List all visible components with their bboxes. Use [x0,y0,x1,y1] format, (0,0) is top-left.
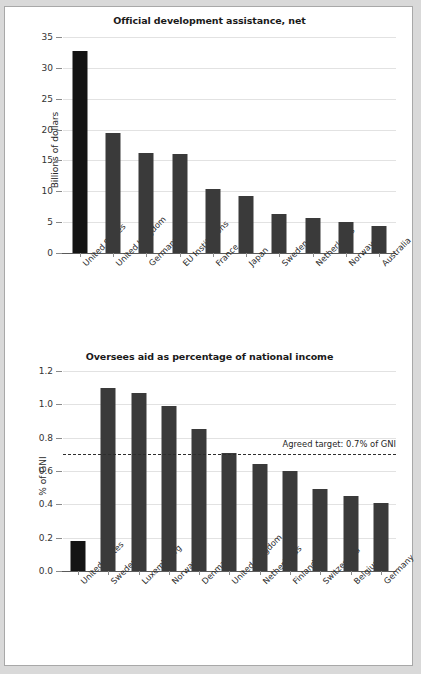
bar[interactable] [72,51,87,253]
x-axis-tick [346,253,347,257]
x-axis-tick [279,253,280,257]
y-axis-tick [56,37,62,38]
y-axis-tick-label: 5 [47,217,53,227]
x-axis-tick [260,571,261,575]
y-axis-tick-label: 1.0 [39,399,53,409]
x-axis-tick [139,571,140,575]
bar-slot: Finland [275,371,305,571]
y-axis-tick [56,130,62,131]
y-axis-tick [56,160,62,161]
bar-slot: United States [63,371,93,571]
x-axis-tick [108,571,109,575]
bar-series: United StatesUnited KingdomGermanyEU Ins… [63,37,396,253]
bar[interactable] [283,471,298,571]
bar-slot: United Kingdom [96,37,129,253]
bar-slot: United Kingdom [214,371,244,571]
y-axis-tick [56,471,62,472]
bar-series: United StatesSwedenLuxembourgNorwayDenma… [63,371,396,571]
bar[interactable] [172,154,187,253]
bar-slot: Norway [154,371,184,571]
bar-slot: Netherlands [245,371,275,571]
y-axis-tick-label: 25 [42,94,53,104]
y-axis-tick-label: 15 [42,155,53,165]
y-axis-tick-label: 0.8 [39,433,53,443]
bar[interactable] [139,153,154,253]
x-axis-tick [320,571,321,575]
bar[interactable] [205,189,220,253]
y-axis-tick-label: 0 [47,248,53,258]
y-axis-tick [56,253,62,254]
y-axis-tick [56,68,62,69]
x-axis-tick [146,253,147,257]
bar-slot: Belgium [335,371,365,571]
chart-title: Oversees aid as percentage of national i… [5,351,414,362]
y-axis-tick-label: 0.4 [39,499,53,509]
x-axis-tick [381,571,382,575]
x-axis-tick [246,253,247,257]
x-axis-tick [113,253,114,257]
bar[interactable] [71,541,86,571]
bar-slot: Japan [230,37,263,253]
report-page: Official development assistance, net Bil… [4,6,413,666]
plot-area-bottom: % of GNI 0.00.20.40.60.81.01.2United Sta… [63,371,396,571]
bar-slot: EU Institutions [163,37,196,253]
bar[interactable] [101,388,116,571]
y-axis-tick-label: 1.2 [39,366,53,376]
bar[interactable] [373,503,388,571]
bar-slot: Australia [363,37,396,253]
x-axis-tick [199,571,200,575]
bar-slot: Sweden [263,37,296,253]
bar-slot: Germany [366,371,396,571]
y-axis-tick-label: 20 [42,125,53,135]
bar[interactable] [272,214,287,253]
bar-slot: Germany [130,37,163,253]
bar[interactable] [313,489,328,571]
x-axis-tick [290,571,291,575]
chart-aid-as-percentage-of-gni: Oversees aid as percentage of national i… [5,347,414,663]
bar-slot: Netherlands [296,37,329,253]
x-axis-tick [229,571,230,575]
chart-official-development-assistance: Official development assistance, net Bil… [5,11,414,341]
bar[interactable] [105,133,120,253]
y-axis-tick [56,404,62,405]
y-axis-tick [56,99,62,100]
y-axis-tick [56,438,62,439]
y-axis-tick-label: 0.0 [39,566,53,576]
y-axis-label: % of GNI [38,456,48,495]
plot-area-top: Billions of dollars 05101520253035United… [63,37,396,253]
bar-slot: Switzerland [305,371,335,571]
bar[interactable] [192,429,207,571]
bar[interactable] [131,393,146,571]
y-axis-tick [56,571,62,572]
y-axis-tick [56,191,62,192]
x-axis-tick [313,253,314,257]
bar-slot: Sweden [93,371,123,571]
y-axis-tick-label: 35 [42,32,53,42]
bar-slot: Norway [329,37,362,253]
y-axis-label: Billions of dollars [50,112,60,189]
bar[interactable] [339,222,354,253]
y-axis-tick [56,538,62,539]
x-axis-tick [78,571,79,575]
target-line-label: Agreed target: 0.7% of GNI [283,439,396,449]
bar-slot: France [196,37,229,253]
y-axis-tick-label: 10 [42,186,53,196]
bar[interactable] [343,496,358,571]
bar[interactable] [239,196,254,253]
y-axis-tick [56,371,62,372]
bar[interactable] [372,226,387,253]
x-axis-tick [213,253,214,257]
bar-slot: United States [63,37,96,253]
y-axis-tick [56,222,62,223]
bar[interactable] [305,218,320,253]
x-axis-tick [180,253,181,257]
bar[interactable] [161,406,176,571]
bar-slot: Luxembourg [124,371,154,571]
bar[interactable] [222,453,237,571]
x-axis-tick [379,253,380,257]
bar[interactable] [252,464,267,571]
y-axis-tick-label: 0.2 [39,533,53,543]
x-axis-tick [351,571,352,575]
x-axis-tick [169,571,170,575]
x-axis-tick [80,253,81,257]
